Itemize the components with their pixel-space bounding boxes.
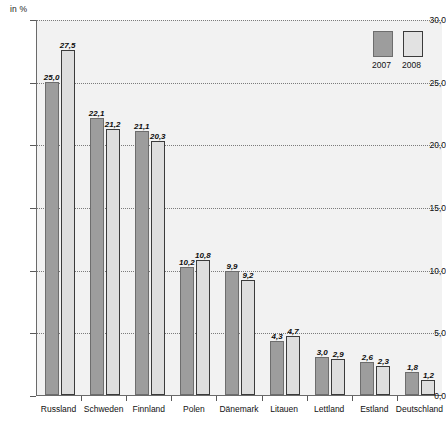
y-axis-tick-label: 20,0	[413, 140, 446, 150]
x-axis-tick-mark	[126, 396, 127, 401]
bar-value-label: 21,1	[134, 122, 150, 131]
y-axis-tick-label: 30,0	[413, 15, 446, 25]
bar-estland-2007: 2,6	[360, 362, 374, 395]
x-axis-tick-mark	[171, 396, 172, 401]
bar-dänemark-2008: 9,2	[241, 280, 255, 395]
y-axis-tick-label: 5,0	[413, 328, 446, 338]
legend-label-2008: 2008	[402, 60, 421, 70]
bar-russland-2007: 25,0	[45, 82, 59, 395]
bar-value-label: 4,3	[272, 332, 283, 341]
bar-value-label: 20,3	[150, 132, 166, 141]
x-axis-category-label: Finnland	[132, 404, 165, 414]
x-axis-category-label: Dänemark	[219, 404, 258, 414]
legend-swatch-2007	[373, 31, 393, 57]
y-axis-tick-mark	[30, 208, 36, 209]
legend-label-2007: 2007	[372, 60, 391, 70]
y-axis-tick-mark	[30, 396, 36, 397]
gridline	[37, 20, 442, 21]
y-axis-tick-label: 15,0	[413, 203, 446, 213]
x-axis-category-label: Polen	[183, 404, 205, 414]
bar-value-label: 1,8	[407, 363, 418, 372]
bar-polen-2008: 10,8	[196, 260, 210, 395]
bar-litauen-2008: 4,7	[286, 336, 300, 395]
bar-schweden-2008: 21,2	[106, 129, 120, 395]
bar-lettland-2007: 3,0	[315, 357, 329, 395]
bar-value-label: 9,2	[242, 271, 253, 280]
gridline	[37, 83, 442, 84]
bar-value-label: 9,9	[226, 262, 237, 271]
y-axis-tick-label: 25,0	[413, 78, 446, 88]
bar-value-label: 25,0	[44, 73, 60, 82]
bar-finnland-2008: 20,3	[151, 141, 165, 395]
bar-russland-2008: 27,5	[61, 50, 75, 395]
bar-value-label: 3,0	[317, 348, 328, 357]
bar-value-label: 10,2	[179, 258, 195, 267]
y-axis-tick-mark	[30, 145, 36, 146]
bar-value-label: 21,2	[105, 120, 121, 129]
bar-lettland-2008: 2,9	[331, 359, 345, 395]
y-axis-tick-label: 10,0	[413, 266, 446, 276]
x-axis-tick-mark	[81, 396, 82, 401]
bar-value-label: 4,7	[288, 327, 299, 336]
y-axis-tick-mark	[30, 271, 36, 272]
y-axis-unit-label: in %	[10, 4, 27, 14]
bar-value-label: 27,5	[60, 41, 76, 50]
bar-dänemark-2007: 9,9	[225, 271, 239, 395]
bar-value-label: 1,2	[423, 371, 434, 380]
x-axis-category-label: Estland	[360, 404, 388, 414]
x-axis-category-label: Schweden	[84, 404, 124, 414]
x-axis-tick-mark	[397, 396, 398, 401]
x-axis-category-label: Russland	[41, 404, 76, 414]
bar-value-label: 2,3	[378, 357, 389, 366]
x-axis-category-label: Litauen	[270, 404, 298, 414]
y-axis-tick-label: 0,0	[413, 391, 446, 401]
legend-swatch-2008	[403, 31, 423, 57]
x-axis-tick-mark	[262, 396, 263, 401]
y-axis-tick-mark	[30, 333, 36, 334]
x-axis-category-label: Deutschland	[396, 404, 443, 414]
plot-area: 25,027,522,121,221,120,310,210,89,99,24,…	[36, 20, 442, 396]
bar-value-label: 10,8	[195, 251, 211, 260]
x-axis-category-label: Lettland	[314, 404, 344, 414]
bar-chart: in % 25,027,522,121,221,120,310,210,89,9…	[0, 0, 446, 431]
x-axis-tick-mark	[216, 396, 217, 401]
bar-value-label: 22,1	[89, 109, 105, 118]
bar-schweden-2007: 22,1	[90, 118, 104, 395]
bar-value-label: 2,9	[333, 350, 344, 359]
x-axis-tick-mark	[352, 396, 353, 401]
y-axis-tick-mark	[30, 83, 36, 84]
bar-polen-2007: 10,2	[180, 267, 194, 395]
bar-estland-2008: 2,3	[376, 366, 390, 395]
bar-value-label: 2,6	[362, 353, 373, 362]
bar-litauen-2007: 4,3	[270, 341, 284, 395]
x-axis-tick-mark	[307, 396, 308, 401]
bar-finnland-2007: 21,1	[135, 131, 149, 395]
y-axis-tick-mark	[30, 20, 36, 21]
chart-legend: 2007 2008	[372, 31, 434, 73]
